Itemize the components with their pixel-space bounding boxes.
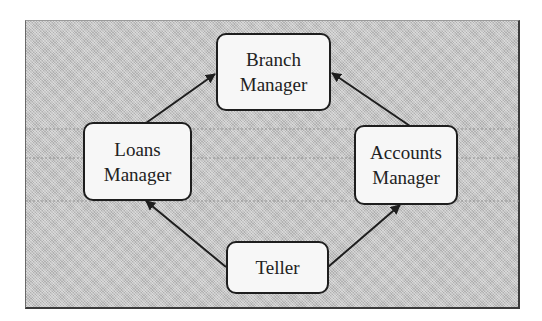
node-label-line1: Branch <box>246 47 301 72</box>
node-label-line1: Teller <box>255 255 299 280</box>
node-teller: Teller <box>226 241 329 294</box>
node-label-line2: Manager <box>240 72 308 97</box>
node-branch-manager: Branch Manager <box>216 33 331 111</box>
node-label-line1: Loans <box>114 137 160 162</box>
node-label-line1: Accounts <box>370 140 442 165</box>
node-loans-manager: Loans Manager <box>83 122 192 201</box>
node-label-line2: Manager <box>104 162 172 187</box>
node-accounts-manager: Accounts Manager <box>354 125 458 205</box>
node-label-line2: Manager <box>372 165 440 190</box>
